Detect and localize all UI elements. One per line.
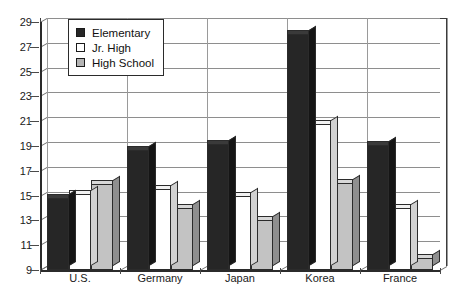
x-axis-tick-mark — [200, 268, 201, 274]
y-axis-tick-label: 17 — [6, 166, 32, 176]
y-axis-tick-label: 9 — [6, 265, 32, 275]
y-axis: 911131517192123252729 — [0, 0, 32, 297]
bar-front-face — [367, 145, 389, 270]
bar-front-face — [127, 150, 149, 270]
chart-legend: ElementaryJr. HighHigh School — [68, 19, 164, 76]
x-axis-tick-label: U.S. — [40, 272, 120, 284]
y-axis-tick-mark — [30, 146, 39, 147]
y-axis-tick-label: 23 — [6, 91, 32, 101]
y-axis-tick-mark — [30, 72, 39, 73]
x-axis-tick-label: Germany — [120, 272, 200, 284]
bar-front-face — [287, 34, 309, 270]
bar-front-face — [207, 144, 229, 270]
legend-item: Elementary — [76, 25, 154, 40]
legend-item: Jr. High — [76, 40, 154, 55]
y-axis-tick-mark — [30, 171, 39, 172]
bar-japan-elementary — [207, 144, 229, 270]
bar-side-face — [411, 200, 418, 266]
legend-label: Elementary — [92, 27, 150, 39]
category-separator-depth — [440, 266, 447, 271]
y-axis-line — [40, 22, 42, 271]
legend-item: High School — [76, 55, 154, 70]
bar-side-face — [113, 176, 120, 266]
bar-side-face — [389, 136, 396, 266]
y-axis-tick-label: 15 — [6, 191, 32, 201]
x-axis-tick-mark — [120, 268, 121, 274]
y-axis-tick-mark — [30, 270, 39, 271]
y-axis-tick-label: 29 — [6, 17, 32, 27]
bar-side-face — [193, 200, 200, 266]
y-axis-tick-label: 21 — [6, 116, 32, 126]
bar-side-face — [331, 115, 338, 266]
y-axis-tick-mark — [30, 22, 39, 23]
bar-side-face — [91, 186, 98, 266]
legend-swatch-highschool-icon — [76, 58, 85, 67]
y-axis-tick-mark — [30, 47, 39, 48]
gridline — [47, 92, 440, 93]
y-axis-tick-label: 27 — [6, 42, 32, 52]
bar-side-face — [353, 175, 360, 266]
legend-swatch-elementary-icon — [76, 28, 85, 37]
bar-side-face — [69, 190, 76, 266]
y-axis-tick-label: 11 — [6, 240, 32, 250]
y-axis-tick-label: 25 — [6, 67, 32, 77]
gridline — [47, 117, 440, 118]
y-axis-tick-mark — [30, 220, 39, 221]
x-axis-tick-mark — [40, 268, 41, 274]
category-separator-line — [447, 18, 448, 266]
bar-france-elementary — [367, 145, 389, 270]
y-axis-tick-mark — [30, 121, 39, 122]
x-axis-tick-label: Korea — [280, 272, 360, 284]
bar-side-face — [229, 135, 236, 266]
legend-swatch-jrhigh-icon — [76, 43, 85, 52]
bar-side-face — [309, 26, 316, 266]
bar-front-face — [47, 198, 69, 270]
x-axis-tick-mark — [440, 268, 441, 274]
bar-side-face — [251, 187, 258, 266]
y-axis-tick-mark — [30, 196, 39, 197]
bar-side-face — [171, 181, 178, 266]
legend-label: Jr. High — [92, 42, 131, 54]
bar-us-elementary — [47, 198, 69, 270]
bar-chart: 911131517192123252729 U.S.GermanyJapanKo… — [0, 0, 453, 297]
bar-side-face — [149, 141, 156, 266]
x-axis-tick-mark — [360, 268, 361, 274]
legend-label: High School — [92, 57, 154, 69]
bar-germany-elementary — [127, 150, 149, 270]
x-axis-tick-mark — [280, 268, 281, 274]
bar-side-face — [273, 212, 280, 266]
y-axis-tick-mark — [30, 96, 39, 97]
y-axis-tick-label: 13 — [6, 215, 32, 225]
bar-korea-elementary — [287, 34, 309, 270]
x-axis-tick-label: Japan — [200, 272, 280, 284]
y-axis-tick-label: 19 — [6, 141, 32, 151]
y-axis-tick-mark — [30, 245, 39, 246]
x-axis-tick-label: France — [360, 272, 440, 284]
